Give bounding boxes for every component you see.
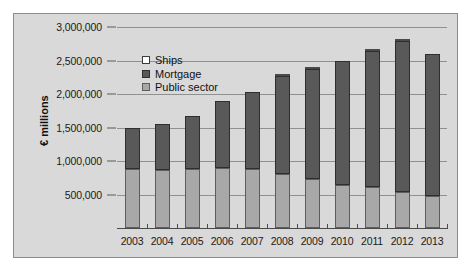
y-axis-tick-mark [107, 161, 116, 162]
x-axis-tick-label: 2012 [387, 235, 417, 247]
bar-segment-mortgage[interactable] [155, 124, 170, 170]
y-axis-title: € millions [38, 95, 50, 146]
y-axis-tick-mark [107, 94, 116, 95]
x-axis-tick-mark [177, 224, 178, 229]
bar-segment-public-sector[interactable] [365, 187, 380, 228]
bar-segment-ships[interactable] [365, 49, 380, 51]
legend-item[interactable]: Mortgage [142, 68, 218, 81]
y-axis-tick-label: 500,000 [65, 189, 102, 201]
legend-swatch-icon [142, 56, 150, 64]
bar-segment-mortgage[interactable] [245, 92, 260, 169]
bar-group[interactable] [245, 27, 260, 228]
bar-segment-mortgage[interactable] [125, 128, 140, 170]
bar-segment-public-sector[interactable] [275, 174, 290, 228]
x-axis-line [117, 228, 447, 229]
x-axis-tick-label: 2013 [417, 235, 447, 247]
bar-group[interactable] [125, 27, 140, 228]
bar-segment-mortgage[interactable] [365, 51, 380, 187]
bar-segment-public-sector[interactable] [395, 192, 410, 228]
chart-legend: ShipsMortgagePublic sector [142, 54, 218, 95]
legend-item-label: Public sector [155, 81, 218, 93]
bar-group[interactable] [365, 27, 380, 228]
bar-segment-mortgage[interactable] [305, 69, 320, 179]
y-axis-tick-mark [107, 127, 116, 128]
bar-group[interactable] [395, 27, 410, 228]
bar-segment-public-sector[interactable] [305, 179, 320, 228]
y-axis-tick-mark [107, 194, 116, 195]
y-axis-tick-label: 1,500,000 [56, 122, 102, 134]
x-axis-tick-mark [327, 224, 328, 229]
bar-segment-mortgage[interactable] [335, 61, 350, 186]
bar-segment-public-sector[interactable] [335, 185, 350, 228]
legend-item[interactable]: Public sector [142, 81, 218, 94]
x-axis-tick-mark [237, 224, 238, 229]
bar-group[interactable] [275, 27, 290, 228]
x-axis-tick-mark [357, 224, 358, 229]
chart-panel: € millions 3,000,0002,500,0002,000,0001,… [13, 13, 458, 258]
y-axis-tick-mark [107, 60, 116, 61]
x-axis-tick-label: 2006 [207, 235, 237, 247]
bar-segment-public-sector[interactable] [215, 168, 230, 228]
bar-segment-ships[interactable] [275, 74, 290, 76]
x-axis-tick-mark [447, 224, 448, 229]
bar-segment-public-sector[interactable] [245, 169, 260, 228]
bar-segment-mortgage[interactable] [185, 116, 200, 169]
x-axis-tick-label: 2005 [177, 235, 207, 247]
y-axis-tick-mark [107, 27, 116, 28]
bar-segment-public-sector[interactable] [125, 169, 140, 228]
legend-swatch-icon [142, 70, 150, 78]
bar-group[interactable] [305, 27, 320, 228]
bar-segment-mortgage[interactable] [275, 76, 290, 173]
legend-item-label: Ships [155, 54, 183, 66]
legend-swatch-icon [142, 83, 150, 91]
x-axis-tick-label: 2003 [117, 235, 147, 247]
bar-segment-mortgage[interactable] [425, 54, 440, 196]
x-axis-tick-mark [387, 224, 388, 229]
x-axis-tick-mark [147, 224, 148, 229]
x-axis-tick-label: 2007 [237, 235, 267, 247]
legend-item[interactable]: Ships [142, 54, 218, 67]
bar-segment-ships[interactable] [305, 67, 320, 69]
x-axis-tick-label: 2004 [147, 235, 177, 247]
legend-item-label: Mortgage [155, 68, 201, 80]
y-axis-tick-label: 2,000,000 [56, 88, 102, 100]
x-axis-tick-mark [207, 224, 208, 229]
x-axis-tick-mark [267, 224, 268, 229]
bar-group[interactable] [425, 27, 440, 228]
bar-segment-public-sector[interactable] [425, 196, 440, 228]
bar-segment-ships[interactable] [395, 39, 410, 41]
bar-segment-public-sector[interactable] [155, 170, 170, 228]
y-axis-tick-label: 2,500,000 [56, 55, 102, 67]
x-axis-tick-label: 2010 [327, 235, 357, 247]
x-axis-tick-mark [297, 224, 298, 229]
x-axis-tick-label: 2009 [297, 235, 327, 247]
x-axis-tick-label: 2008 [267, 235, 297, 247]
bar-segment-mortgage[interactable] [215, 101, 230, 168]
bar-segment-mortgage[interactable] [395, 41, 410, 192]
y-axis-tick-label: 3,000,000 [56, 21, 102, 33]
bar-segment-public-sector[interactable] [185, 169, 200, 228]
y-axis-tick-label: 1,000,000 [56, 155, 102, 167]
bar-group[interactable] [335, 27, 350, 228]
x-axis-tick-label: 2011 [357, 235, 387, 247]
x-axis-tick-mark [417, 224, 418, 229]
